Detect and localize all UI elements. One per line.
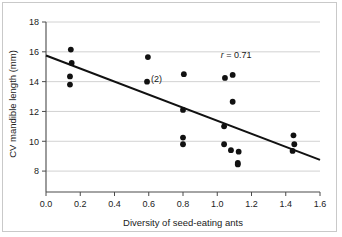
data-point [221,141,227,147]
data-point [144,79,150,85]
annotation-value: = 0.71 [224,50,252,60]
data-point [67,74,73,80]
data-point [67,82,73,88]
x-tick-label: 0.0 [40,199,53,209]
data-point [69,60,75,66]
y-tick-label: 10 [29,137,39,147]
x-tick-label: 1.2 [245,199,258,209]
data-point [228,147,234,153]
data-point [235,161,241,167]
data-point [145,54,151,60]
data-point [290,148,296,154]
data-point [180,107,186,113]
annotations-group: r = 0.71(2) [151,50,251,85]
data-point [230,72,236,78]
data-point [236,149,242,155]
plot-canvas: 81012141618 0.00.20.40.60.81.01.21.41.6 … [0,0,342,237]
y-tick-label: 16 [29,47,39,57]
y-tick-label: 18 [29,17,39,27]
y-axis-title: CV mandible length (mm) [7,50,18,158]
data-point [180,141,186,147]
x-tick-label: 1.6 [314,199,327,209]
x-axis-title: Diversity of seed-eating ants [123,217,243,228]
data-point [222,75,228,81]
x-tick-label: 0.4 [108,199,121,209]
x-tick-labels-group: 0.00.20.40.60.81.01.21.41.6 [40,199,327,209]
data-point [180,135,186,141]
y-tick-label: 12 [29,107,39,117]
y-tick-label: 8 [34,166,39,176]
x-tick-label: 0.8 [177,199,190,209]
data-point [221,123,227,129]
x-tick-label: 0.6 [142,199,155,209]
gridlines-group [46,22,320,171]
data-point [68,47,74,53]
scatter-plot-figure: 81012141618 0.00.20.40.60.81.01.21.41.6 … [0,0,342,237]
data-point [291,132,297,138]
data-point [291,141,297,147]
annotation-duplicate-count: (2) [151,74,162,84]
x-tick-label: 1.4 [279,199,292,209]
data-point [181,71,187,77]
data-point [230,99,236,105]
x-tick-label: 0.2 [74,199,87,209]
annotation-correlation: r = 0.71 [221,50,252,60]
x-tick-label: 1.0 [211,199,224,209]
y-tick-label: 14 [29,77,39,87]
y-tick-labels-group: 81012141618 [29,17,39,176]
